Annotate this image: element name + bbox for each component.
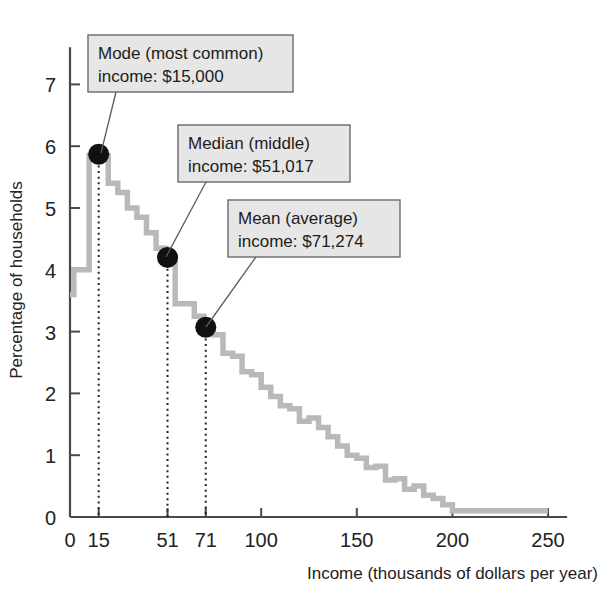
y-tick-label-3: 3 — [45, 322, 56, 344]
y-tick-label-5: 5 — [45, 198, 56, 220]
callout-mean[interactable]: Mean (average) income: $71,274 — [228, 200, 400, 257]
x-tick-label-100: 100 — [245, 529, 278, 551]
y-tick-label-7: 7 — [45, 74, 56, 96]
x-tick-label-250: 250 — [531, 529, 564, 551]
callout-mode[interactable]: Mode (most common) income: $15,000 — [88, 35, 293, 92]
y-axis-title: Percentage of households — [7, 181, 26, 379]
x-tick-label-71: 71 — [195, 529, 217, 551]
marker-mean[interactable] — [195, 317, 216, 338]
y-tick-label-4: 4 — [45, 260, 56, 282]
callout-median-line1: Median (middle) — [188, 134, 310, 153]
marker-mode[interactable] — [88, 144, 109, 165]
y-tick-label-1: 1 — [45, 445, 56, 467]
marker-median[interactable] — [157, 247, 178, 268]
x-axis-title: Income (thousands of dollars per year) — [307, 564, 598, 583]
x-tick-label-15: 15 — [88, 529, 110, 551]
y-tick-label-6: 6 — [45, 136, 56, 158]
x-tick-label-200: 200 — [436, 529, 469, 551]
y-tick-label-2: 2 — [45, 383, 56, 405]
callout-median-line2: income: $51,017 — [188, 157, 314, 176]
callout-mode-line1: Mode (most common) — [98, 44, 263, 63]
x-tick-label-0: 0 — [64, 529, 75, 551]
callout-median[interactable]: Median (middle) income: $51,017 — [178, 125, 350, 182]
y-tick-label-0: 0 — [45, 507, 56, 529]
callout-mean-line1: Mean (average) — [238, 209, 358, 228]
x-tick-label-150: 150 — [340, 529, 373, 551]
x-tick-label-51: 51 — [156, 529, 178, 551]
callout-mode-line2: income: $15,000 — [98, 67, 224, 86]
income-distribution-chart: 0155171100150200250 01234567 Mode (most … — [0, 0, 613, 608]
callout-mean-line2: income: $71,274 — [238, 232, 364, 251]
